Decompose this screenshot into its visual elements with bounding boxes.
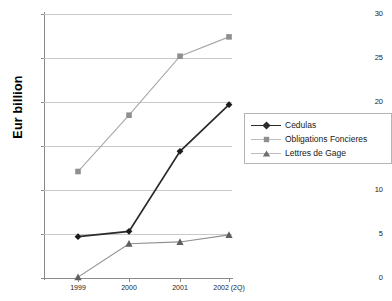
legend-item-obligations-foncieres[interactable]: Obligations Foncieres [251,132,391,146]
legend-label-lettres-de-gage: Lettres de Gage [281,148,346,158]
x-axis-tick-mark [229,279,230,282]
y-axis-tick-label: 30 [357,10,383,18]
legend-label-cedulas: Cedulas [281,120,316,130]
gridline [44,234,232,235]
plot-area [44,14,232,278]
x-axis-line [44,278,233,279]
legend-label-obligations-foncieres: Obligations Foncieres [281,134,367,144]
legend-item-cedulas[interactable]: Cedulas [251,118,391,132]
legend: Cedulas Obligations Foncieres Lettres de… [244,113,392,164]
gridline [44,146,232,147]
y-axis-tick-label: 10 [357,186,383,194]
gridline [44,14,232,15]
x-axis-tick-mark [129,279,130,282]
y-axis-title: Eur billion [11,57,25,157]
y-axis-tick-label: 5 [357,230,383,238]
legend-item-lettres-de-gage[interactable]: Lettres de Gage [251,146,391,160]
legend-marker-triangle-icon [251,147,281,159]
y-axis-tick-label: 0 [357,274,383,282]
x-axis-tick-label: 2002 (2Q) [199,284,259,291]
y-axis-tick-label: 25 [357,54,383,62]
gridline [44,58,232,59]
y-axis-tick-label: 20 [357,98,383,106]
x-axis-tick-mark [78,279,79,282]
x-axis-tick-mark [180,279,181,282]
gridline [44,190,232,191]
gridline [44,102,232,103]
legend-marker-diamond-icon [251,119,281,131]
legend-marker-square-icon [251,133,281,145]
